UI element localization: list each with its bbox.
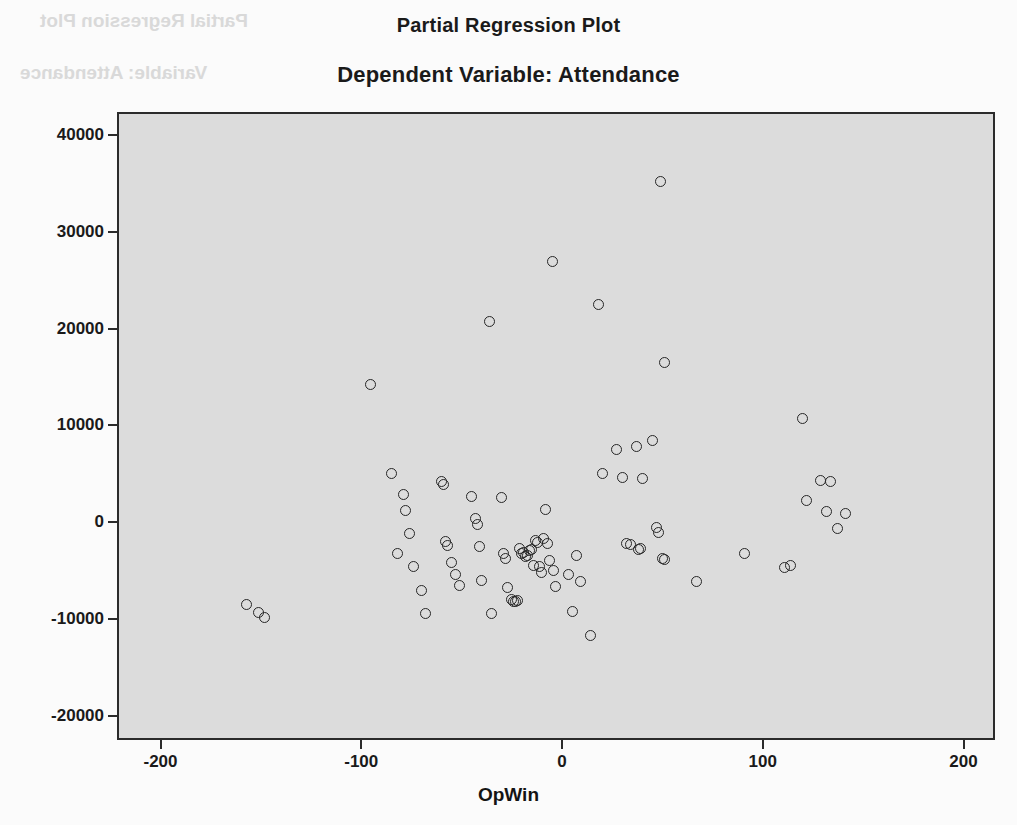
- data-point: [398, 489, 409, 500]
- x-axis-tick: [360, 740, 362, 749]
- data-point: [454, 580, 465, 591]
- data-point: [840, 508, 851, 519]
- data-point: [438, 479, 449, 490]
- y-axis-tick: [108, 134, 117, 136]
- x-axis-tick-label: -200: [121, 752, 201, 772]
- data-point: [450, 569, 461, 580]
- data-point: [801, 495, 812, 506]
- x-axis-tick: [561, 740, 563, 749]
- data-point: [655, 176, 666, 187]
- x-axis-tick: [160, 740, 162, 749]
- data-point: [500, 553, 511, 564]
- data-point: [631, 441, 642, 452]
- data-point: [653, 527, 664, 538]
- data-point: [416, 585, 427, 596]
- data-point: [392, 548, 403, 559]
- data-point: [259, 612, 270, 623]
- y-axis-tick-label: -10000: [51, 609, 104, 629]
- data-point: [404, 528, 415, 539]
- data-point: [486, 608, 497, 619]
- data-point: [542, 538, 553, 549]
- figure-page: Partial Regression Plot Variable: Attend…: [0, 0, 1017, 825]
- y-axis-tick-label: 20000: [57, 319, 104, 339]
- data-point: [386, 468, 397, 479]
- data-point: [611, 444, 622, 455]
- x-axis-tick-label: 100: [723, 752, 803, 772]
- data-point: [585, 630, 596, 641]
- x-axis-tick: [762, 740, 764, 749]
- x-axis-title: OpWin: [0, 784, 1017, 806]
- chart-title: Partial Regression Plot: [0, 14, 1017, 37]
- data-point: [472, 519, 483, 530]
- data-point: [597, 468, 608, 479]
- data-point: [466, 491, 477, 502]
- data-point: [476, 575, 487, 586]
- data-point: [408, 561, 419, 572]
- data-point: [659, 357, 670, 368]
- data-point: [691, 576, 702, 587]
- y-axis-tick-label: 0: [95, 512, 104, 532]
- data-point: [571, 550, 582, 561]
- data-point: [547, 256, 558, 267]
- data-point: [241, 599, 252, 610]
- y-axis-tick: [108, 618, 117, 620]
- y-axis-tick: [108, 715, 117, 717]
- data-point: [659, 554, 670, 565]
- y-axis-tick: [108, 424, 117, 426]
- data-point: [785, 560, 796, 571]
- data-point: [637, 473, 648, 484]
- data-point: [739, 548, 750, 559]
- data-point: [496, 492, 507, 503]
- x-axis-tick-label: 0: [522, 752, 602, 772]
- data-point: [512, 595, 523, 606]
- y-axis-tick-label: 40000: [57, 125, 104, 145]
- data-point: [400, 505, 411, 516]
- x-axis-tick-label: -100: [321, 752, 401, 772]
- data-point: [563, 569, 574, 580]
- data-point: [832, 523, 843, 534]
- data-point: [365, 379, 376, 390]
- data-point: [617, 472, 628, 483]
- y-axis-tick: [108, 521, 117, 523]
- data-point: [825, 476, 836, 487]
- data-point: [647, 435, 658, 446]
- y-axis-tick-label: 30000: [57, 222, 104, 242]
- data-point: [635, 543, 646, 554]
- data-point: [567, 606, 578, 617]
- y-axis-tick-label: -20000: [51, 706, 104, 726]
- data-point: [420, 608, 431, 619]
- y-axis-title: Attendance: [0, 339, 1, 442]
- data-point: [797, 413, 808, 424]
- y-axis-tick: [108, 231, 117, 233]
- data-point: [502, 582, 513, 593]
- data-point: [821, 506, 832, 517]
- data-point: [550, 581, 561, 592]
- data-point: [484, 316, 495, 327]
- data-point: [575, 576, 586, 587]
- data-point: [536, 567, 547, 578]
- data-point: [540, 504, 551, 515]
- y-axis-tick-label: 10000: [57, 415, 104, 435]
- x-axis-tick: [963, 740, 965, 749]
- y-axis-tick: [108, 328, 117, 330]
- scatter-points-layer: [119, 114, 993, 738]
- data-point: [474, 541, 485, 552]
- data-point: [548, 565, 559, 576]
- data-point: [593, 299, 604, 310]
- chart-subtitle: Dependent Variable: Attendance: [0, 62, 1017, 88]
- data-point: [442, 540, 453, 551]
- x-axis-tick-label: 200: [924, 752, 1004, 772]
- data-point: [446, 557, 457, 568]
- plot-area: [117, 112, 995, 740]
